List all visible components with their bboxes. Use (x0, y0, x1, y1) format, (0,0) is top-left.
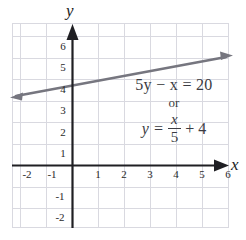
equation-plus-constant: + 4 (185, 120, 206, 138)
x-tick-label: 5 (193, 169, 211, 180)
x-tick-label: -2 (18, 169, 36, 180)
y-tick-label: 5 (54, 62, 72, 73)
graph-figure: y x -2 -1 1 2 3 4 5 6 6 5 4 3 2 1 -1 -2 … (0, 0, 246, 240)
fraction-denominator: 5 (168, 129, 182, 145)
x-tick-label: 2 (115, 169, 133, 180)
y-tick-label: 6 (54, 41, 72, 52)
x-tick-label: 6 (219, 169, 237, 180)
y-tick-label: -2 (51, 212, 69, 223)
y-axis-arrow (67, 24, 79, 40)
x-tick-label: -1 (43, 169, 61, 180)
fraction-x-over-5: x 5 (168, 112, 182, 145)
x-tick-label: 1 (89, 169, 107, 180)
y-tick-label: -1 (51, 191, 69, 202)
y-tick-label: 3 (54, 105, 72, 116)
y-tick-label: 1 (54, 148, 72, 159)
x-tick-label: 3 (141, 169, 159, 180)
y-tick-label: 2 (54, 127, 72, 138)
equation-slope-intercept-form: y = x 5 + 4 (112, 112, 236, 145)
equation-lhs: y = (142, 120, 164, 138)
y-axis-label: y (66, 2, 74, 19)
equation-annotation: 5y − x = 20 or y = x 5 + 4 (112, 76, 236, 145)
equation-connector: or (112, 95, 236, 111)
equation-standard-form: 5y − x = 20 (112, 76, 236, 94)
line-arrow-left (10, 93, 23, 101)
x-tick-label: 4 (167, 169, 185, 180)
fraction-numerator: x (168, 112, 181, 128)
y-tick-label: 4 (54, 84, 72, 95)
